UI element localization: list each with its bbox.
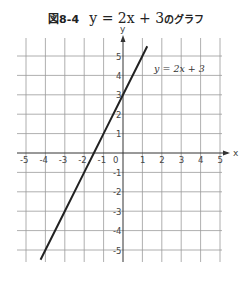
x-tick-label: -2 [78, 155, 86, 165]
y-tick-label: 5 [116, 52, 121, 62]
graph-plot: xy-5-4-3-2-112345054321-1-2-3-4-5y = 2x … [0, 0, 252, 289]
x-axis-arrow-icon [223, 151, 230, 156]
y-tick-label: 2 [116, 110, 121, 120]
y-axis-label: y [120, 24, 126, 34]
x-tick-label: 4 [198, 155, 203, 165]
x-tick-label: -5 [20, 155, 28, 165]
y-tick-label: -1 [113, 168, 121, 178]
x-tick-label: -1 [98, 155, 106, 165]
x-tick-label: 3 [179, 155, 184, 165]
y-tick-label: -3 [113, 207, 121, 217]
y-tick-label: 4 [116, 71, 121, 81]
y-tick-label: -5 [113, 246, 121, 256]
x-tick-label: 1 [140, 155, 145, 165]
x-tick-label: 5 [218, 155, 223, 165]
origin-label: 0 [113, 155, 118, 165]
y-tick-label: -2 [113, 187, 121, 197]
x-tick-label: 2 [159, 155, 164, 165]
line-equation-label: y = 2x + 3 [153, 63, 205, 74]
y-axis-arrow-icon [121, 35, 126, 42]
x-tick-label: -3 [59, 155, 67, 165]
x-axis-label: x [233, 148, 239, 158]
y-tick-label: -4 [113, 226, 121, 236]
x-tick-label: -4 [39, 155, 47, 165]
y-tick-label: 1 [116, 129, 121, 139]
